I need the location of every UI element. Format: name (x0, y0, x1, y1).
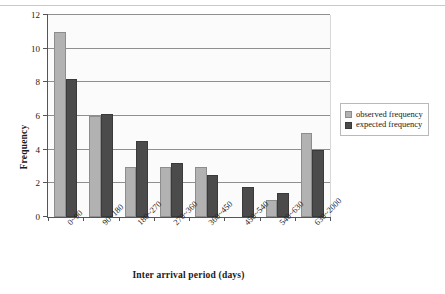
bar-expected (312, 150, 324, 217)
legend: observed frequency expected frequency (340, 103, 429, 136)
bar-group (224, 15, 259, 217)
x-axis-category-labels: 0~9090~180180~270270~360360~450450~54054… (47, 220, 330, 262)
y-axis-tick-label: 8 (36, 78, 41, 87)
scan-artifact-line (0, 5, 445, 6)
bar-group (154, 15, 189, 217)
legend-swatch-observed-icon (345, 111, 352, 118)
legend-swatch-expected-icon (345, 122, 352, 129)
bar-observed (54, 32, 66, 217)
bar-group (295, 15, 330, 217)
bar-observed (89, 116, 101, 217)
y-axis-tick-label: 2 (36, 179, 41, 188)
legend-label-expected: expected frequency (356, 120, 422, 129)
bar-group (189, 15, 224, 217)
bar-expected (66, 79, 78, 217)
bar-expected (136, 141, 148, 217)
plot-area: 024681012 (47, 15, 330, 218)
bar-group (119, 15, 154, 217)
legend-label-observed: observed frequency (356, 110, 423, 119)
bar-groups (48, 15, 330, 217)
bar-observed (160, 167, 172, 218)
legend-item-observed: observed frequency (345, 110, 423, 119)
y-axis-tick-label: 4 (36, 145, 41, 154)
bar-group (260, 15, 295, 217)
bar-group (83, 15, 118, 217)
y-axis-tick-label: 0 (36, 213, 41, 222)
bar-expected (101, 114, 113, 217)
x-axis-tick (330, 217, 331, 221)
bar-group (48, 15, 83, 217)
legend-item-expected: expected frequency (345, 120, 423, 129)
plot-frame-right (330, 15, 331, 219)
chart-figure: Frequency 024681012 0~9090~180180~270270… (0, 0, 445, 294)
y-axis-title: Frequency (19, 125, 29, 170)
y-axis-tick-label: 12 (31, 11, 40, 20)
bar-observed (195, 167, 207, 218)
x-axis-title: Inter arrival period (days) (47, 270, 330, 280)
y-axis-tick-label: 10 (31, 44, 40, 53)
y-axis-tick-label: 6 (36, 112, 41, 121)
bar-observed (125, 167, 137, 218)
